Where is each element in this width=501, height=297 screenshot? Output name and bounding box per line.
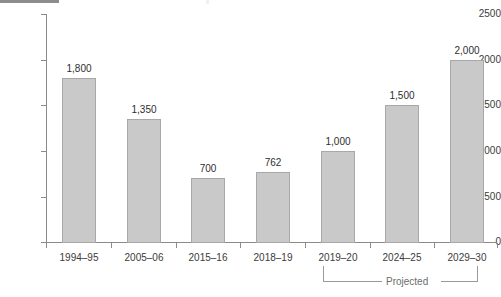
bar-2024-25 — [385, 105, 419, 243]
x-label-2005-06: 2005–06 — [111, 252, 177, 264]
x-label-2029-30: 2029–30 — [434, 252, 500, 264]
y-tick-1000 — [41, 151, 46, 152]
projected-bracket-line-right — [441, 281, 477, 282]
y-tick-label-2500: 2500 — [465, 9, 501, 19]
bar-value-2018-19: 762 — [240, 158, 306, 168]
x-tick-6 — [434, 243, 435, 248]
bar-value-2024-25: 1,500 — [369, 91, 435, 101]
projected-bracket-line-left — [323, 281, 382, 282]
x-tick-1 — [111, 243, 112, 248]
bar-value-1994-95: 1,800 — [46, 64, 112, 74]
y-tick-2000 — [41, 60, 46, 61]
x-label-1994-95: 1994–95 — [46, 252, 112, 264]
y-tick-500 — [41, 197, 46, 198]
bar-chart: 2500 2000 1500 1000 500 0 1,800 1,350 70… — [0, 0, 501, 297]
bar-2019-20 — [321, 151, 355, 243]
x-tick-2 — [176, 243, 177, 248]
bar-1994-95 — [62, 78, 96, 243]
x-label-2015-16: 2015–16 — [175, 252, 241, 264]
x-tick-4 — [305, 243, 306, 248]
bar-2015-16 — [191, 178, 225, 243]
bar-2018-19 — [256, 172, 290, 243]
y-tick-1500 — [41, 105, 46, 106]
bar-value-2005-06: 1,350 — [111, 105, 177, 115]
x-label-2019-20: 2019–20 — [305, 252, 371, 264]
x-tick-3 — [240, 243, 241, 248]
top-edge-mark — [206, 0, 209, 4]
bar-2029-30 — [450, 60, 484, 243]
x-tick-0 — [46, 243, 47, 248]
bar-2005-06 — [127, 119, 161, 243]
x-tick-7 — [497, 243, 498, 248]
bar-value-2029-30: 2,000 — [434, 46, 500, 56]
bar-value-2019-20: 1,000 — [305, 137, 371, 147]
projected-bracket-left-tick — [323, 266, 324, 282]
y-tick-2500 — [41, 14, 46, 15]
x-label-2024-25: 2024–25 — [369, 252, 435, 264]
x-tick-5 — [370, 243, 371, 248]
x-label-2018-19: 2018–19 — [240, 252, 306, 264]
projected-bracket-right-tick — [477, 266, 478, 282]
bar-value-2015-16: 700 — [175, 164, 241, 174]
top-edge-rule — [0, 0, 59, 3]
projected-bracket-label: Projected — [386, 277, 428, 287]
y-axis-line — [46, 14, 47, 243]
